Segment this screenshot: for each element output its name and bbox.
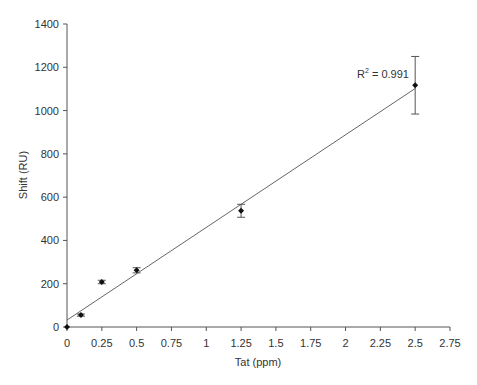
chart-container: 020040060080010001200140000.250.50.7511.… (0, 0, 477, 385)
x-tick-label: 1.75 (300, 337, 321, 349)
x-tick-label: 0 (64, 337, 70, 349)
x-tick-label: 2.25 (370, 337, 391, 349)
x-tick-label: 1 (203, 337, 209, 349)
y-tick-label: 800 (41, 148, 59, 160)
diamond-marker-icon (78, 312, 84, 318)
x-tick-label: 0.25 (91, 337, 112, 349)
y-tick-label: 1400 (35, 18, 59, 30)
x-tick-label: 0.75 (161, 337, 182, 349)
y-tick-label: 1000 (35, 105, 59, 117)
scatter-plot: 020040060080010001200140000.250.50.7511.… (0, 0, 477, 385)
x-axis-title: Tat (ppm) (235, 356, 281, 368)
y-tick-label: 600 (41, 191, 59, 203)
x-tick-label: 1.5 (268, 337, 283, 349)
r-squared-label: R2 = 0.991 (357, 67, 409, 80)
x-tick-label: 2.5 (408, 337, 423, 349)
y-tick-label: 0 (53, 321, 59, 333)
diamond-marker-icon (238, 208, 244, 214)
x-tick-label: 2 (342, 337, 348, 349)
axis-labels: Tat (ppm) Shift (RU) (17, 151, 281, 368)
diamond-marker-icon (412, 82, 418, 88)
x-tick-label: 0.5 (129, 337, 144, 349)
data-points (64, 56, 419, 330)
x-tick-label: 1.25 (230, 337, 251, 349)
r-squared-annotation: R2 = 0.991 (357, 67, 409, 80)
y-tick-label: 400 (41, 234, 59, 246)
y-tick-label: 200 (41, 278, 59, 290)
x-tick-label: 2.75 (439, 337, 460, 349)
y-tick-label: 1200 (35, 61, 59, 73)
y-axis-title: Shift (RU) (17, 151, 29, 199)
diamond-marker-icon (64, 324, 70, 330)
